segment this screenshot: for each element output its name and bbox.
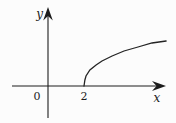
tick-label-2: 2: [81, 90, 88, 103]
x-axis-label: x: [154, 91, 161, 105]
function-plot-figure: y x 0 2: [0, 0, 176, 123]
origin-label: 0: [34, 90, 41, 103]
y-axis-label: y: [35, 7, 43, 21]
sqrt-curve: [84, 41, 166, 86]
plot-canvas: y x 0 2: [0, 0, 176, 123]
